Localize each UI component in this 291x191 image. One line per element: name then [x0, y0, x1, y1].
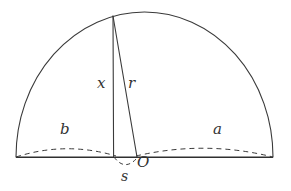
label-r: r — [128, 76, 135, 91]
label-origin-O: O — [137, 155, 149, 170]
vertical-segment-x — [113, 16, 114, 157]
label-x: x — [97, 76, 105, 91]
label-b: b — [60, 122, 70, 137]
geometry-figure: x r b a O s — [0, 0, 291, 191]
label-a: a — [213, 122, 222, 137]
label-s: s — [121, 169, 128, 183]
